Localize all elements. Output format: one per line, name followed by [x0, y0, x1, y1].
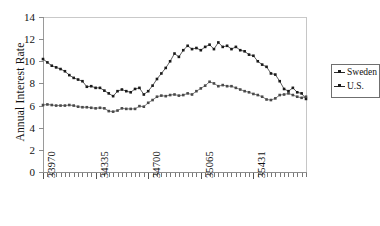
data-point	[235, 87, 238, 90]
data-point	[283, 88, 286, 91]
data-point	[99, 87, 102, 90]
data-point	[221, 46, 224, 49]
data-point	[112, 110, 115, 113]
data-point	[230, 85, 233, 88]
data-point	[173, 93, 176, 96]
data-point	[200, 49, 203, 52]
data-point	[46, 61, 49, 64]
data-point	[178, 94, 181, 97]
data-point	[296, 91, 299, 94]
data-point	[116, 90, 119, 93]
data-point	[217, 41, 220, 44]
data-point	[143, 93, 146, 96]
data-point	[77, 105, 80, 108]
data-point	[121, 107, 124, 110]
data-point	[169, 60, 172, 63]
data-point	[94, 87, 97, 90]
data-point	[182, 49, 185, 52]
data-point	[261, 63, 264, 66]
data-point	[256, 60, 259, 63]
data-point	[261, 95, 264, 98]
data-point	[300, 97, 303, 100]
data-point	[151, 84, 154, 87]
data-point	[200, 87, 203, 90]
data-point	[138, 105, 141, 108]
data-point	[226, 44, 229, 47]
data-point	[164, 67, 167, 70]
data-point	[292, 87, 295, 90]
data-point	[129, 108, 132, 111]
data-point	[68, 104, 71, 107]
data-point	[94, 107, 97, 110]
data-point	[213, 82, 216, 85]
data-point	[121, 88, 124, 91]
legend-label-us: U.S.	[347, 80, 364, 92]
data-point	[86, 106, 89, 109]
data-point	[274, 97, 277, 100]
legend-marker-icon	[338, 70, 341, 73]
data-point	[274, 73, 277, 76]
data-point	[252, 93, 255, 96]
data-point	[103, 107, 106, 110]
data-point	[191, 93, 194, 96]
data-point	[217, 85, 220, 88]
data-point	[186, 44, 189, 47]
data-point	[182, 94, 185, 97]
data-point	[178, 56, 181, 59]
data-point	[173, 52, 176, 55]
data-point	[90, 85, 93, 88]
data-point	[300, 92, 303, 95]
data-point	[125, 108, 128, 111]
data-point	[204, 84, 207, 87]
data-point	[283, 93, 286, 96]
data-point	[68, 74, 71, 77]
data-point	[156, 78, 159, 81]
data-point	[243, 50, 246, 53]
data-point	[42, 104, 45, 107]
data-point	[265, 98, 268, 101]
legend-marker-icon	[338, 84, 341, 87]
data-point	[208, 80, 211, 83]
data-point	[164, 95, 167, 98]
data-point	[77, 78, 80, 81]
legend-item-sweden[interactable]: Sweden	[334, 67, 378, 79]
data-point	[125, 90, 128, 93]
data-point	[248, 53, 251, 56]
data-point	[59, 68, 62, 71]
data-point	[265, 66, 268, 69]
series-line-sweden	[42, 41, 308, 100]
data-point	[72, 104, 75, 107]
data-point	[230, 48, 233, 51]
data-point	[50, 104, 53, 107]
chart-figure: Annual Interest Rate 02468101214 3397034…	[0, 0, 380, 226]
data-point	[252, 54, 255, 57]
legend: Sweden U.S.	[331, 64, 380, 98]
data-point	[107, 92, 110, 95]
data-point	[138, 87, 141, 90]
data-point	[235, 46, 238, 49]
data-point	[213, 48, 216, 51]
data-point	[239, 88, 242, 91]
data-point	[81, 106, 84, 109]
data-point	[103, 89, 106, 92]
data-point	[64, 70, 67, 73]
data-point	[160, 94, 163, 97]
data-point	[248, 91, 251, 94]
data-point	[278, 94, 281, 97]
data-point	[270, 72, 273, 75]
data-point	[129, 91, 132, 94]
data-point	[186, 92, 189, 95]
data-point	[147, 90, 150, 93]
data-point	[107, 110, 110, 113]
legend-label-sweden: Sweden	[347, 66, 377, 78]
data-point	[64, 104, 67, 107]
data-point	[191, 48, 194, 51]
data-point	[305, 95, 308, 98]
data-point	[287, 92, 290, 95]
legend-item-us[interactable]: U.S.	[334, 81, 378, 93]
data-point	[243, 90, 246, 93]
data-point	[46, 103, 49, 106]
series-line-us	[42, 80, 308, 112]
data-point	[239, 49, 242, 52]
data-point	[59, 104, 62, 107]
